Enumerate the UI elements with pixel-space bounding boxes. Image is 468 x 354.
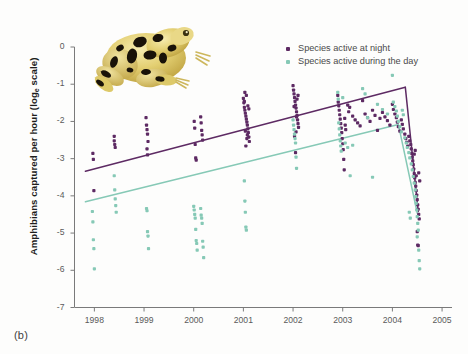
data-point (338, 133, 341, 136)
plot-axes (71, 47, 453, 312)
data-point (392, 100, 395, 103)
data-point (196, 249, 199, 252)
data-point (145, 209, 148, 212)
data-point (145, 147, 148, 150)
data-point (295, 167, 298, 170)
data-point (416, 222, 419, 225)
data-point (195, 239, 198, 242)
data-point (397, 120, 400, 123)
y-tick-label: -1 (43, 78, 65, 88)
data-point (92, 158, 95, 161)
data-point (294, 156, 297, 159)
data-point (356, 121, 359, 124)
x-tick-label: 2001 (223, 315, 263, 325)
y-axis-title-tail: scale) (28, 58, 39, 89)
data-point (243, 100, 246, 103)
data-point (247, 107, 250, 110)
data-point (396, 115, 399, 118)
data-point (354, 118, 357, 121)
data-point (295, 98, 298, 101)
data-point (359, 124, 362, 127)
data-point (416, 235, 419, 238)
data-point (199, 115, 202, 118)
data-point (244, 130, 247, 133)
panamanian-golden-frog-illustration (92, 23, 210, 95)
x-tick-label: 1998 (74, 315, 114, 325)
legend: Species active at night Species active d… (286, 42, 418, 68)
data-point (363, 112, 366, 115)
data-point (146, 153, 149, 156)
data-point (201, 133, 204, 136)
data-point (408, 156, 411, 159)
data-point (245, 137, 248, 140)
data-point (417, 228, 420, 231)
data-point (413, 182, 416, 185)
data-point (246, 104, 249, 107)
data-point (246, 133, 249, 136)
data-point (201, 240, 204, 243)
data-point (244, 144, 247, 147)
x-tick-label: 1999 (124, 315, 164, 325)
data-point (361, 87, 364, 90)
data-point (202, 256, 205, 259)
data-point (114, 204, 117, 207)
data-point (418, 259, 421, 262)
data-point (376, 129, 379, 132)
x-tick-label: 2004 (372, 315, 412, 325)
data-point (193, 127, 196, 130)
data-point (114, 146, 117, 149)
data-point (244, 112, 247, 115)
data-point (414, 195, 417, 198)
data-point (411, 168, 414, 171)
data-point (381, 111, 384, 114)
data-point (373, 114, 376, 117)
data-point (146, 140, 149, 143)
data-point (193, 208, 196, 211)
data-point (417, 244, 420, 247)
data-point (113, 139, 116, 142)
data-point (92, 238, 95, 241)
data-point (193, 120, 196, 123)
data-point (91, 210, 94, 213)
data-point (291, 118, 294, 121)
y-tick-label: -3 (43, 153, 65, 163)
data-point (413, 153, 416, 156)
y-axis-ticks (71, 47, 75, 308)
data-point (414, 149, 417, 152)
data-point (194, 217, 197, 220)
data-point (339, 118, 342, 121)
data-point (363, 92, 366, 95)
data-points (91, 74, 422, 271)
data-point (200, 129, 203, 132)
data-point (245, 228, 248, 231)
data-point (381, 108, 384, 111)
x-tick-label: 2003 (323, 315, 363, 325)
data-point (296, 118, 299, 121)
data-point (349, 174, 352, 177)
data-point (295, 115, 298, 118)
legend-label-day: Species active during the day (298, 57, 418, 66)
data-point (391, 74, 394, 77)
data-point (113, 174, 116, 177)
data-point (418, 179, 421, 182)
data-point (408, 139, 411, 142)
data-point (244, 115, 247, 118)
data-point (386, 112, 389, 115)
data-point (243, 106, 246, 109)
panel-label: (b) (14, 329, 28, 341)
y-tick-label: -2 (43, 115, 65, 125)
data-point (344, 128, 347, 131)
data-point (402, 127, 405, 130)
data-point (146, 132, 149, 135)
data-point (114, 197, 117, 200)
data-point (192, 205, 195, 208)
data-point (92, 247, 95, 250)
data-point (147, 247, 150, 250)
data-point (115, 211, 118, 214)
data-point (376, 103, 379, 106)
data-point (194, 228, 197, 231)
legend-entry-day: Species active during the day (286, 55, 418, 68)
data-point (410, 147, 413, 150)
data-point (244, 211, 247, 214)
data-point (244, 226, 247, 229)
